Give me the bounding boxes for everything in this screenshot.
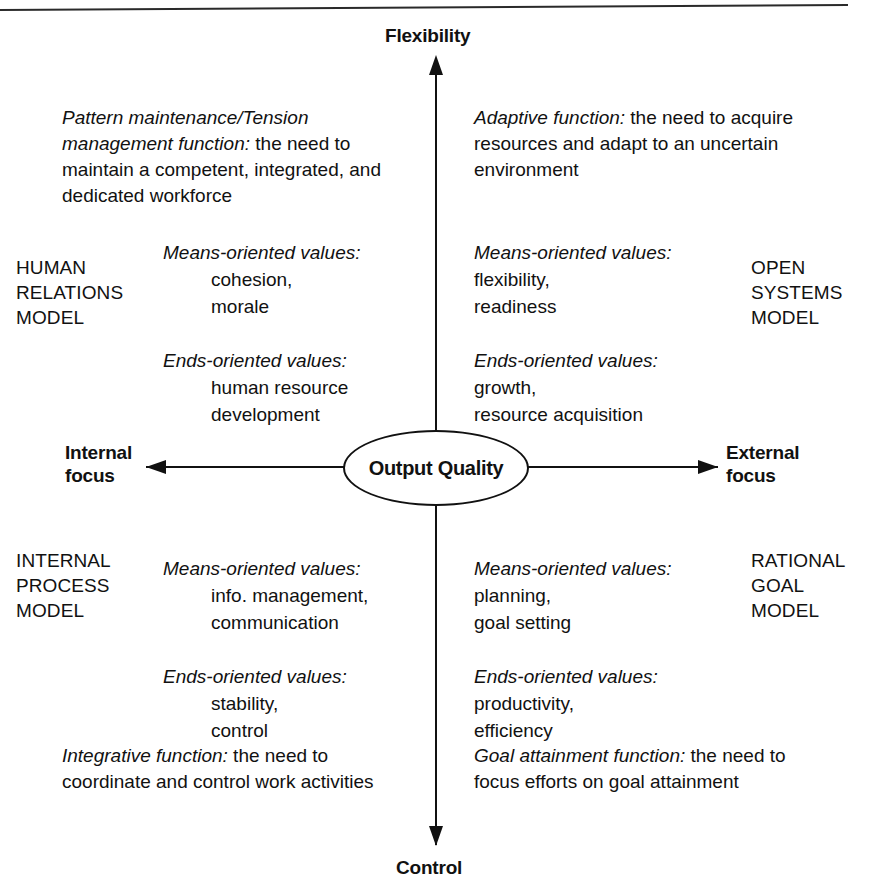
values-heading: Ends-oriented values: <box>163 347 348 374</box>
values-heading: Ends-oriented values: <box>474 347 658 374</box>
values-item: readiness <box>474 293 672 320</box>
values-item: goal setting <box>474 609 672 636</box>
values-heading: Ends-oriented values: <box>474 663 658 690</box>
function-term: Goal attainment function: <box>474 745 685 766</box>
function-pattern-maintenance: Pattern maintenance/Tension management f… <box>62 105 422 209</box>
model-label-open-systems: OPEN SYSTEMS MODEL <box>751 255 843 330</box>
function-term: Integrative function: <box>62 745 228 766</box>
values-item: cohesion, <box>163 266 361 293</box>
values-means-internal-process: Means-oriented values: info. management,… <box>163 555 368 636</box>
function-term: Adaptive function: <box>474 107 625 128</box>
page-header-rule <box>0 4 848 11</box>
axis-label-external-focus: External focus <box>726 441 799 487</box>
values-item: morale <box>163 293 361 320</box>
values-ends-open-systems: Ends-oriented values: growth, resource a… <box>474 347 658 428</box>
axis-label-internal-focus: Internal focus <box>65 441 132 487</box>
values-item: control <box>163 717 347 744</box>
center-node-label: Output Quality <box>369 457 504 480</box>
values-ends-rational-goal: Ends-oriented values: productivity, effi… <box>474 663 658 744</box>
values-item: human resource <box>163 374 348 401</box>
axis-label-control: Control <box>396 856 462 879</box>
arrow-right-icon <box>698 460 718 474</box>
function-goal-attainment: Goal attainment function: the need to fo… <box>474 743 834 795</box>
values-item: communication <box>163 609 368 636</box>
values-means-open-systems: Means-oriented values: flexibility, read… <box>474 239 672 320</box>
center-node-output-quality: Output Quality <box>343 430 529 506</box>
values-item: efficiency <box>474 717 658 744</box>
model-label-internal-process: INTERNAL PROCESS MODEL <box>16 548 111 623</box>
values-item: resource acquisition <box>474 401 658 428</box>
values-item: productivity, <box>474 690 658 717</box>
function-integrative: Integrative function: the need to coordi… <box>62 743 422 795</box>
values-ends-internal-process: Ends-oriented values: stability, control <box>163 663 347 744</box>
values-item: info. management, <box>163 582 368 609</box>
values-item: stability, <box>163 690 347 717</box>
values-heading: Means-oriented values: <box>474 555 672 582</box>
values-heading: Means-oriented values: <box>163 555 368 582</box>
model-label-human-relations: HUMAN RELATIONS MODEL <box>16 255 123 330</box>
values-item: development <box>163 401 348 428</box>
values-heading: Means-oriented values: <box>474 239 672 266</box>
values-ends-human-relations: Ends-oriented values: human resource dev… <box>163 347 348 428</box>
values-heading: Ends-oriented values: <box>163 663 347 690</box>
values-item: growth, <box>474 374 658 401</box>
values-heading: Means-oriented values: <box>163 239 361 266</box>
arrow-up-icon <box>429 55 443 75</box>
arrow-down-icon <box>429 826 443 846</box>
axis-label-flexibility: Flexibility <box>385 24 470 47</box>
values-item: flexibility, <box>474 266 672 293</box>
model-label-rational-goal: RATIONAL GOAL MODEL <box>751 548 845 623</box>
values-means-rational-goal: Means-oriented values: planning, goal se… <box>474 555 672 636</box>
values-means-human-relations: Means-oriented values: cohesion, morale <box>163 239 361 320</box>
values-item: planning, <box>474 582 672 609</box>
arrow-left-icon <box>146 460 166 474</box>
diagram-canvas: Flexibility Control Internal focus Exter… <box>0 0 869 893</box>
function-adaptive: Adaptive function: the need to acquire r… <box>474 105 824 183</box>
